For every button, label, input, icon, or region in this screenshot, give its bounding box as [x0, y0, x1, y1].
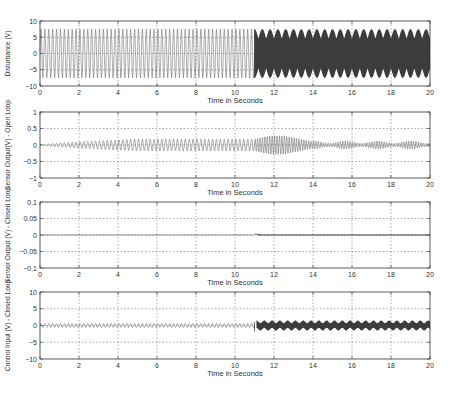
- x-tick-label: 18: [387, 89, 395, 96]
- y-tick-label: 0: [33, 322, 37, 329]
- x-tick-label: 8: [194, 362, 198, 369]
- x-tick-label: 2: [77, 181, 81, 188]
- y-tick-label: −10: [25, 83, 37, 90]
- x-tick-label: 16: [348, 271, 356, 278]
- chart-canvas: 024681012141618201050−5−10Time in Second…: [0, 0, 450, 403]
- y-tick-label: −5: [29, 339, 37, 346]
- x-tick-label: 4: [116, 181, 120, 188]
- x-axis-label: Time in Seconds: [207, 96, 263, 105]
- x-axis-label: Time in Seconds: [207, 369, 263, 378]
- x-tick-label: 12: [270, 89, 278, 96]
- x-tick-label: 6: [155, 181, 159, 188]
- subplot-4: 024681012141618201050−5−10Time in Second…: [4, 280, 434, 378]
- x-tick-label: 6: [155, 89, 159, 96]
- x-tick-label: 2: [77, 362, 81, 369]
- y-tick-label: −0.05: [19, 248, 37, 255]
- x-tick-label: 8: [194, 89, 198, 96]
- y-tick-label: 0: [33, 50, 37, 57]
- y-tick-label: −5: [29, 66, 37, 73]
- subplot-1: 024681012141618201050−5−10Time in Second…: [4, 18, 434, 106]
- x-tick-label: 20: [426, 89, 434, 96]
- x-tick-label: 6: [155, 271, 159, 278]
- y-axis-label: Sensor Output(V) - Open Loop: [4, 100, 12, 190]
- x-tick-label: 14: [309, 89, 317, 96]
- x-tick-label: 4: [116, 89, 120, 96]
- figure: 024681012141618201050−5−10Time in Second…: [0, 0, 450, 403]
- y-tick-label: −10: [25, 356, 37, 363]
- y-tick-label: −0.5: [23, 158, 37, 165]
- x-tick-label: 16: [348, 181, 356, 188]
- subplot-2: 0246810121416182010.50−0.5−1Time in Seco…: [4, 100, 434, 197]
- x-axis-label: Time in Seconds: [207, 278, 263, 287]
- x-tick-label: 0: [38, 181, 42, 188]
- y-tick-label: 1: [33, 109, 37, 116]
- x-tick-label: 0: [38, 89, 42, 96]
- x-tick-label: 20: [426, 181, 434, 188]
- x-tick-label: 10: [231, 181, 239, 188]
- x-axis-label: Time in Seconds: [207, 188, 263, 197]
- y-axis-label: Disturbance (V): [4, 31, 12, 77]
- x-tick-label: 16: [348, 89, 356, 96]
- x-tick-label: 14: [309, 181, 317, 188]
- x-tick-label: 16: [348, 362, 356, 369]
- x-tick-label: 4: [116, 362, 120, 369]
- x-tick-label: 10: [231, 271, 239, 278]
- x-tick-label: 2: [77, 89, 81, 96]
- x-tick-label: 12: [270, 271, 278, 278]
- x-tick-label: 14: [309, 271, 317, 278]
- y-tick-label: −1: [29, 175, 37, 182]
- y-tick-label: 0.1: [27, 199, 37, 206]
- y-tick-label: −0.1: [23, 265, 37, 272]
- x-tick-label: 10: [231, 89, 239, 96]
- x-tick-label: 8: [194, 181, 198, 188]
- y-tick-label: 5: [33, 34, 37, 41]
- x-tick-label: 18: [387, 181, 395, 188]
- x-tick-label: 12: [270, 362, 278, 369]
- x-tick-label: 14: [309, 362, 317, 369]
- y-tick-label: 10: [29, 289, 37, 296]
- x-tick-label: 2: [77, 271, 81, 278]
- x-tick-label: 0: [38, 362, 42, 369]
- y-tick-label: 0: [33, 232, 37, 239]
- y-tick-label: 0.05: [23, 215, 37, 222]
- y-tick-label: 0.5: [27, 125, 37, 132]
- y-axis-label: Control Input (V) - Closed Loop: [4, 280, 12, 372]
- x-tick-label: 20: [426, 271, 434, 278]
- x-tick-label: 8: [194, 271, 198, 278]
- x-tick-label: 12: [270, 181, 278, 188]
- y-axis-label: Sensor Output (V) - Closed Loop: [4, 187, 12, 283]
- x-tick-label: 4: [116, 271, 120, 278]
- x-tick-label: 6: [155, 362, 159, 369]
- x-tick-label: 10: [231, 362, 239, 369]
- x-tick-label: 18: [387, 271, 395, 278]
- y-tick-label: 5: [33, 305, 37, 312]
- x-tick-label: 20: [426, 362, 434, 369]
- x-tick-label: 0: [38, 271, 42, 278]
- x-tick-label: 18: [387, 362, 395, 369]
- y-tick-label: 0: [33, 142, 37, 149]
- y-tick-label: 10: [29, 18, 37, 25]
- subplot-3: 024681012141618200.10.050−0.05−0.1Time i…: [4, 187, 434, 287]
